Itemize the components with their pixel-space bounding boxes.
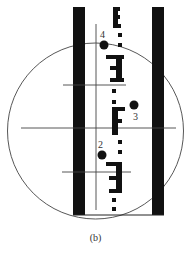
staff-graduations bbox=[106, 7, 125, 211]
figure-caption: (b) bbox=[0, 232, 191, 243]
point-3-label: 3 bbox=[133, 112, 138, 122]
point-4-label: 4 bbox=[100, 30, 105, 40]
leveling-staff-reticle-diagram bbox=[0, 0, 191, 257]
point-4-marker bbox=[100, 41, 109, 50]
point-2-label: 2 bbox=[98, 140, 103, 150]
point-3-marker bbox=[130, 101, 139, 110]
staff-left-bar bbox=[73, 7, 85, 215]
staff-right-bar bbox=[152, 7, 164, 215]
point-2-marker bbox=[98, 151, 107, 160]
